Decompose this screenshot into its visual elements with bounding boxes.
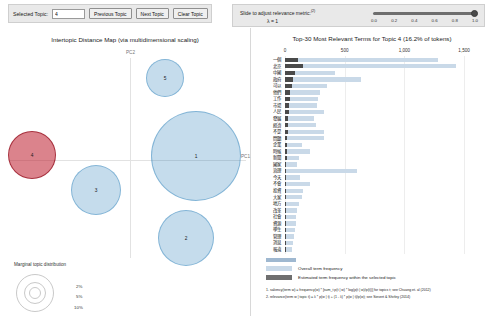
map-axis-label-pc1: PC1	[241, 154, 250, 159]
bar-topic-frequency	[285, 84, 292, 88]
relevance-slider-track[interactable]	[373, 12, 476, 15]
relevance-slider-handle[interactable]	[471, 10, 478, 17]
term-bar-row[interactable]: 政府	[253, 77, 488, 82]
legend-label-topic: Estimated term frequency within the sele…	[298, 275, 396, 280]
term-label: 可以	[273, 83, 281, 88]
marginal-value-5: 5%	[76, 294, 82, 299]
map-y-axis	[130, 58, 131, 258]
term-bar-row[interactable]: 治理	[253, 168, 488, 173]
term-label: 政府	[273, 77, 281, 82]
term-bar-row[interactable]: 消息	[253, 240, 488, 245]
term-bar-row[interactable]: 人民	[253, 109, 488, 114]
term-label: 市場	[273, 103, 281, 108]
bar-topic-frequency	[285, 195, 286, 199]
term-bar-row[interactable]: 大家	[253, 195, 488, 200]
term-bar-row[interactable]: 發展	[253, 116, 488, 121]
term-bar-row[interactable]: 地方	[253, 201, 488, 206]
term-bar-row[interactable]: 今天	[253, 175, 488, 180]
term-label: 他們	[273, 90, 281, 95]
term-bar-row[interactable]: 報道	[253, 247, 488, 252]
bar-topic-frequency	[285, 228, 286, 232]
selected-topic-input[interactable]	[52, 9, 85, 19]
topic-proportion-bar	[266, 258, 296, 262]
intertopic-distance-map[interactable]: PC2 PC1 12345	[8, 50, 248, 265]
bar-overall-frequency	[285, 234, 294, 238]
bar-topic-frequency	[285, 202, 286, 206]
bar-overall-frequency	[285, 182, 310, 186]
topic-bubble-1[interactable]: 1	[151, 111, 241, 201]
bar-overall-frequency	[285, 110, 324, 114]
previous-topic-button[interactable]: Previous Topic	[89, 8, 131, 19]
topic-bubble-2[interactable]: 2	[158, 210, 214, 266]
term-label: 一個	[273, 57, 281, 62]
bar-overall-frequency	[285, 64, 456, 68]
topic-bubble-4[interactable]: 4	[8, 131, 56, 179]
bar-overall-frequency	[285, 247, 292, 251]
bar-topic-frequency	[285, 182, 286, 186]
term-label: 資源	[273, 221, 281, 226]
term-bar-row[interactable]: 工作	[253, 96, 488, 101]
term-label: 投資	[273, 188, 281, 193]
barchart-xtick-0: 0	[284, 48, 287, 53]
term-bar-row[interactable]: 改革	[253, 208, 488, 213]
term-label: 今天	[273, 175, 281, 180]
term-bar-row[interactable]: 中國	[253, 70, 488, 75]
bar-overall-frequency	[285, 189, 303, 193]
bar-overall-frequency	[285, 143, 302, 147]
barchart-xtick-500: 500	[341, 48, 349, 53]
term-bar-row[interactable]: 管理	[253, 234, 488, 239]
next-topic-button[interactable]: Next Topic	[136, 8, 169, 19]
slider-tick-0-4: 0.4	[411, 18, 417, 23]
clear-topic-button[interactable]: Clear Topic	[173, 8, 208, 19]
term-bar-row[interactable]: 北京	[253, 64, 488, 69]
bar-topic-frequency	[285, 215, 286, 219]
bar-topic-frequency	[285, 90, 290, 94]
slider-tick-0-2: 0.2	[391, 18, 397, 23]
slider-tick-0-8: 0.8	[452, 18, 458, 23]
term-bar-row[interactable]: 時候	[253, 149, 488, 154]
bar-overall-frequency	[285, 156, 299, 160]
term-bar-row[interactable]: 他們	[253, 90, 488, 95]
term-label: 改革	[273, 208, 281, 213]
term-bar-row[interactable]: 一個	[253, 57, 488, 62]
term-label: 管理	[273, 234, 281, 239]
term-bar-row[interactable]: 不是	[253, 129, 488, 134]
term-bar-row[interactable]: 問題	[253, 136, 488, 141]
term-bar-row[interactable]: 投資	[253, 188, 488, 193]
topic-bubble-label: 4	[31, 153, 34, 158]
term-bar-row[interactable]: 資源	[253, 221, 488, 226]
term-bar-row[interactable]: 可以	[253, 83, 488, 88]
term-bar-row[interactable]: 市場	[253, 103, 488, 108]
term-label: 治理	[273, 168, 281, 173]
slider-tick-1-0: 1.0	[472, 18, 478, 23]
term-bar-row[interactable]: 企業	[253, 142, 488, 147]
bar-overall-frequency	[285, 77, 361, 81]
bar-topic-frequency	[285, 64, 303, 68]
legend-swatch-overall	[266, 266, 292, 271]
term-label: 經濟	[273, 123, 281, 128]
marginal-topic-distribution-legend: Marginal topic distribution 2% 5% 10%	[14, 262, 114, 314]
term-label: 時候	[273, 149, 281, 154]
panel-divider	[250, 28, 251, 316]
term-bar-row[interactable]: 學生	[253, 227, 488, 232]
bar-overall-frequency	[285, 130, 324, 134]
bar-overall-frequency	[285, 215, 296, 219]
bar-topic-frequency	[285, 149, 287, 153]
legend-label-overall: Overall term frequency	[298, 266, 342, 271]
term-bar-row[interactable]: 國家	[253, 162, 488, 167]
term-bar-row[interactable]: 社會	[253, 214, 488, 219]
term-label: 新聞	[273, 155, 281, 160]
term-label: 人民	[273, 109, 281, 114]
term-bar-row[interactable]: 經濟	[253, 123, 488, 128]
term-label: 中國	[273, 70, 281, 75]
legend-swatch-topic	[266, 275, 292, 280]
term-bar-row[interactable]: 不會	[253, 181, 488, 186]
term-bar-row[interactable]: 新聞	[253, 155, 488, 160]
slider-tick-0-0: 0.0	[371, 18, 377, 23]
slider-tick-0-6: 0.6	[432, 18, 438, 23]
topic-bubble-5[interactable]: 5	[146, 59, 184, 97]
topic-bubble-3[interactable]: 3	[71, 165, 121, 215]
bar-topic-frequency	[285, 189, 286, 193]
bar-topic-frequency	[285, 143, 287, 147]
bar-topic-frequency	[285, 77, 293, 81]
